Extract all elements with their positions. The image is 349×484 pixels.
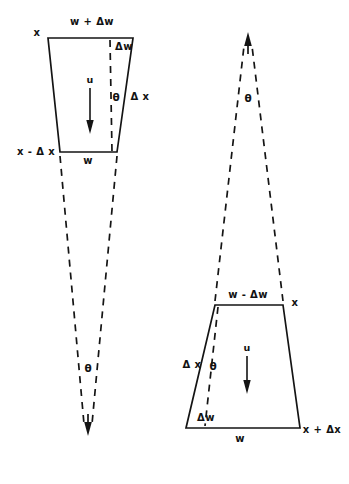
lower-right-bottom-width-label: w bbox=[235, 434, 245, 444]
lower-right-velocity-arrowhead bbox=[243, 380, 250, 394]
lower-right-trapezoid bbox=[186, 305, 300, 428]
lower-right-velocity-label: u bbox=[244, 343, 251, 353]
upper-left-x-minus-delta-x-label: x - Δ x bbox=[17, 147, 55, 157]
lower-right-cone-edge-left bbox=[215, 46, 244, 301]
lower-right-cone-edge-right bbox=[252, 46, 283, 301]
upper-left-x-label: x bbox=[34, 28, 41, 38]
lower-right-x-label: x bbox=[292, 298, 299, 308]
diagram-svg bbox=[0, 0, 349, 484]
upper-left-theta-label: θ bbox=[112, 92, 119, 103]
upper-left-delta-x-label: Δ x bbox=[131, 92, 150, 102]
lower-right-x-plus-delta-x-label: x + Δx bbox=[303, 425, 341, 435]
upper-left-apex-arrowhead bbox=[84, 422, 92, 436]
figure-canvas: w + Δw x Δw u θ Δ x x - Δ x w θ θ w - Δw… bbox=[0, 0, 349, 484]
lower-right-cone-theta-label: θ bbox=[244, 93, 251, 104]
lower-right-top-width-label: w - Δw bbox=[228, 290, 268, 300]
upper-left-bottom-width-label: w bbox=[83, 156, 93, 166]
upper-left-delta-w-label: Δw bbox=[115, 42, 133, 52]
lower-right-theta-label: θ bbox=[209, 361, 216, 372]
upper-left-cone-theta-label: θ bbox=[84, 363, 91, 374]
lower-right-apex-arrowhead bbox=[244, 32, 252, 46]
upper-left-velocity-label: u bbox=[87, 75, 94, 85]
upper-left-cone-edge-right bbox=[92, 156, 117, 424]
lower-right-delta-w-label: Δw bbox=[197, 413, 215, 423]
upper-left-top-width-label: w + Δw bbox=[70, 17, 114, 27]
lower-right-delta-x-label: Δ x bbox=[183, 360, 202, 370]
upper-left-velocity-arrowhead bbox=[86, 120, 93, 134]
upper-left-cone-edge-left bbox=[60, 156, 84, 424]
